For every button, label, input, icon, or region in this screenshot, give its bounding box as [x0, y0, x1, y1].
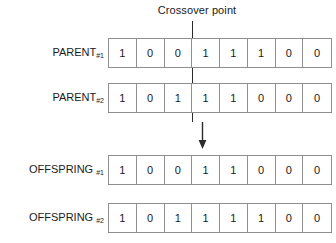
row-label-subscript: #1: [96, 52, 104, 59]
bit-cell: 1: [248, 204, 276, 232]
crossover-diagram: Crossover point PARENT#110011100PARENT#2…: [0, 0, 336, 243]
bit-cell: 1: [220, 84, 248, 112]
row-label-parent-1: PARENT#1: [0, 38, 104, 68]
row-label-subscript: #1: [96, 169, 104, 176]
bit-cell: 0: [248, 156, 276, 184]
row-label-main: OFFSPRING: [29, 211, 93, 223]
bit-cell: 1: [192, 156, 220, 184]
bit-cell: 0: [276, 204, 304, 232]
bit-cell: 1: [192, 84, 220, 112]
chromosome-offspring-2: 10111100: [108, 203, 332, 233]
bit-cell: 0: [276, 156, 304, 184]
bit-cell: 0: [303, 84, 331, 112]
bit-cell: 1: [109, 39, 137, 67]
row-label-text: OFFSPRING #1: [0, 164, 104, 176]
bit-cell: 0: [137, 156, 165, 184]
down-arrow-icon: [196, 122, 209, 150]
bit-cell: 0: [276, 84, 304, 112]
row-label-parent-2: PARENT#2: [0, 83, 104, 113]
row-label-text: OFFSPRING #2: [0, 212, 104, 224]
row-label-text: PARENT#1: [0, 47, 104, 59]
bit-cell: 1: [248, 39, 276, 67]
diagram-title: Crossover point: [0, 4, 336, 16]
bit-cell: 1: [220, 39, 248, 67]
bit-cell: 0: [303, 39, 331, 67]
bit-cell: 0: [165, 156, 193, 184]
bit-cell: 1: [220, 204, 248, 232]
row-label-main: PARENT: [52, 91, 96, 103]
bit-cell: 0: [137, 204, 165, 232]
chromosome-parent-2: 10111000: [108, 83, 332, 113]
bit-cell: 0: [137, 84, 165, 112]
row-label-offspring-1: OFFSPRING #1: [0, 155, 104, 185]
bit-cell: 1: [220, 156, 248, 184]
row-label-subscript: #2: [96, 217, 104, 224]
row-label-main: OFFSPRING: [29, 163, 93, 175]
bit-cell: 0: [165, 39, 193, 67]
bit-cell: 0: [276, 39, 304, 67]
bit-cell: 1: [109, 84, 137, 112]
bit-cell: 0: [303, 156, 331, 184]
bit-cell: 1: [109, 156, 137, 184]
bit-cell: 1: [109, 204, 137, 232]
bit-cell: 1: [192, 204, 220, 232]
bit-cell: 1: [192, 39, 220, 67]
row-label-offspring-2: OFFSPRING #2: [0, 203, 104, 233]
bit-cell: 1: [165, 204, 193, 232]
chromosome-parent-1: 10011100: [108, 38, 332, 68]
row-label-text: PARENT#2: [0, 92, 104, 104]
bit-cell: 0: [303, 204, 331, 232]
bit-cell: 0: [248, 84, 276, 112]
row-label-subscript: #2: [96, 97, 104, 104]
bit-cell: 0: [137, 39, 165, 67]
row-label-main: PARENT: [52, 46, 96, 58]
chromosome-offspring-1: 10011000: [108, 155, 332, 185]
bit-cell: 1: [165, 84, 193, 112]
